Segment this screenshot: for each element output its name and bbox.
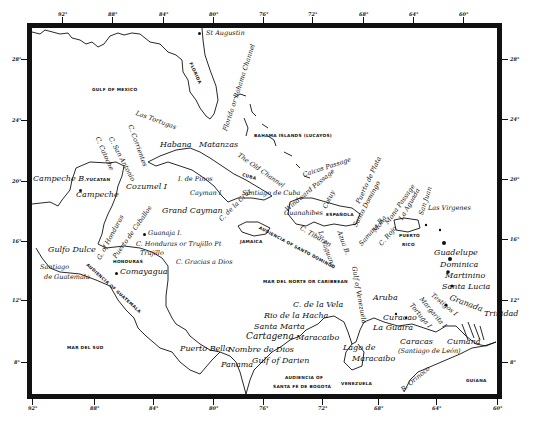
place-santa-marta: Santa Marta [254, 323, 305, 331]
longitude-label: 80° [209, 11, 218, 17]
tick [312, 17, 313, 23]
place-lago-de-maracaibo-2: Maracaibo [352, 355, 395, 363]
place-nombre-de-dios: Nombre de Dios [228, 346, 294, 354]
longitude-label: 64° [409, 11, 418, 17]
longitude-label: 72° [308, 11, 317, 17]
place-puerto-bello: Puerto Bello [180, 345, 230, 353]
island [439, 229, 441, 231]
bahamas-island [250, 104, 256, 116]
tick [21, 59, 27, 60]
place-lago-de-maracaibo-1: Lago de [343, 344, 375, 352]
tick [112, 17, 113, 23]
longitude-label: 68° [359, 11, 368, 17]
place-cartagena: Cartagena [246, 332, 294, 341]
place-caracas-1: Caracas [400, 338, 433, 346]
place-aruba: Aruba [373, 294, 398, 302]
longitude-label: 76° [259, 405, 268, 411]
place-guanahibes: Guanahibes [284, 210, 323, 217]
latitude-label: 12° [12, 297, 21, 303]
place-curacao: Curacao [383, 314, 417, 322]
place-trujillo: Trujillo [140, 250, 164, 257]
latitude-label: 16° [510, 236, 519, 242]
place-c-gracias-a-dios: C. Gracias a Dios [176, 259, 233, 266]
place-grand-cayman: Grand Cayman [162, 207, 223, 215]
region-guiana: GUIANA [466, 379, 487, 383]
tick [502, 179, 508, 180]
region-yucatan: YUCATAN [86, 178, 110, 182]
place-campeche: Campeche [76, 191, 119, 199]
latitude-label: 8° [510, 359, 516, 365]
tick [502, 362, 508, 363]
place-gulf-of-darien: Gulf of Darien [252, 357, 309, 365]
tick [21, 241, 27, 242]
place-martinino: Martinino [445, 272, 485, 280]
longitude-label: 92° [28, 405, 37, 411]
place-maracaibo: Maracaibo [296, 334, 339, 342]
latitude-label: 16° [12, 238, 21, 244]
place-santiago-de-guatemala-1: Santiago [40, 264, 69, 271]
latitude-label: 28° [12, 56, 21, 62]
place-guadelupe: Guadelupe [434, 249, 478, 257]
latitude-label: 24° [12, 117, 21, 123]
latitude-label: 28° [510, 56, 519, 62]
place-santiago-de-cuba: Santiago de Cuba [242, 190, 301, 197]
tick [21, 120, 27, 121]
place-comayagua: Comayagua [120, 268, 168, 276]
place-cayman: Cayman I [190, 190, 221, 197]
place-habana: Habana [160, 141, 192, 149]
longitude-label: 84° [159, 11, 168, 17]
longitude-label: 92° [58, 11, 67, 17]
region-jamaica: JAMAICA [240, 240, 263, 244]
place-las-virgenes: Las Virgenes [428, 205, 471, 212]
region-audiencia-bogota-2: SANTA FÉ DE BOGOTÁ [273, 385, 331, 389]
region-honduras: HONDURAS [113, 260, 143, 264]
place-santiago-de-guatemala-2: de Guatemala [44, 274, 90, 281]
bahamas-island [284, 152, 292, 156]
place-c-de-la-vela: C. de la Vela [293, 301, 343, 309]
tick [463, 17, 464, 23]
latitude-label: 24° [510, 116, 519, 122]
place-panama: Panama [221, 361, 253, 369]
tick [213, 17, 214, 23]
gulf-coast [32, 28, 218, 119]
tick [163, 17, 164, 23]
place-campeche-b: Campeche B. [33, 175, 87, 183]
place-caracas-2: (Santiago de León) [398, 348, 461, 355]
region-bahamas: BAHAMA ISLANDS (LUCAYOS) [254, 134, 332, 138]
tick [502, 300, 508, 301]
bahamas-island [296, 164, 300, 168]
longitude-label: 88° [90, 405, 99, 411]
tick [502, 59, 508, 60]
latitude-label: 20° [12, 178, 21, 184]
longitude-label: 76° [259, 11, 268, 17]
place-la-guaira: La Guaira [373, 324, 413, 332]
longitude-label: 64° [432, 405, 441, 411]
tick [263, 17, 264, 23]
island-guadeloupe [442, 241, 446, 245]
tick [62, 17, 63, 23]
longitude-label: 68° [374, 405, 383, 411]
place-cumana: Cumaná [447, 338, 481, 346]
place-matanzas: Matanzas [199, 141, 238, 149]
place-i-de-pinos: I. de Pinos [178, 176, 213, 183]
place-st-augustin: St Augustin [206, 30, 245, 37]
tick [21, 362, 27, 363]
latitude-label: 12° [510, 297, 519, 303]
place-c-honduras: C. Honduras or Trujillo Pt [136, 241, 221, 248]
region-mar-del-sud: MAR DEL SUD [67, 346, 104, 350]
longitude-label: 72° [318, 405, 327, 411]
region-espanola: ESPAÑOLA [326, 213, 354, 217]
longitude-label: 60° [493, 405, 502, 411]
tick [21, 300, 27, 301]
region-puerto-rico-2: RICO [402, 243, 415, 247]
place-dominica: Dominica [440, 261, 478, 269]
longitude-label: 60° [459, 11, 468, 17]
place-gulfo-dulce: Gulfo Dulce [48, 246, 96, 254]
tick [502, 239, 508, 240]
region-venezuela: VENEZUELA [341, 382, 372, 386]
place-rio-de-la-hacha: Rio de la Hacha [264, 312, 328, 320]
tick [363, 17, 364, 23]
place-cozumel: Cozumel I [126, 183, 167, 191]
bahamas-island [262, 124, 268, 128]
tick [21, 181, 27, 182]
